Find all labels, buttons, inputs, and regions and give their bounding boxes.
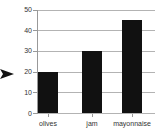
bar-olives: [38, 72, 58, 113]
x-category-label: mayonnaise: [102, 120, 162, 128]
y-tick-label: 10: [16, 89, 32, 97]
arrow-right-icon: [0, 66, 14, 84]
x-axis-tick: [48, 114, 49, 117]
bar-chart: 01020304050olivesjammayonnaise: [0, 0, 167, 139]
bar-jam: [82, 51, 102, 113]
x-axis-tick: [92, 114, 93, 117]
bar-mayonnaise: [122, 20, 142, 113]
y-tick-label: 20: [16, 68, 32, 76]
y-tick-label: 40: [16, 27, 32, 35]
plot-area: 01020304050olivesjammayonnaise: [0, 0, 167, 139]
y-tick-label: 0: [16, 110, 32, 118]
x-axis-tick: [132, 114, 133, 117]
gridline: [37, 10, 155, 11]
y-tick-label: 50: [16, 6, 32, 14]
y-tick-label: 30: [16, 47, 32, 55]
